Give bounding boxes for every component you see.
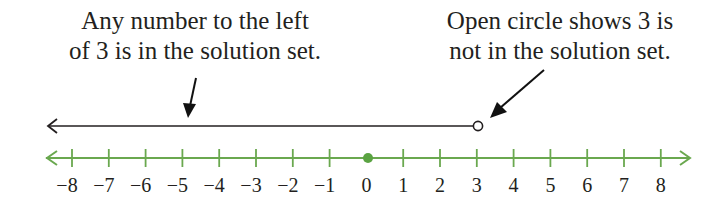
- tick-label: −2: [277, 174, 298, 196]
- filled-point-zero-icon: [363, 153, 373, 163]
- open-circle-icon: [473, 121, 482, 130]
- tick-label: −1: [314, 174, 335, 196]
- tick-label: 6: [582, 174, 592, 196]
- tick-label: 7: [619, 174, 629, 196]
- right-pointer-arrow: [490, 70, 544, 118]
- tick-label: 1: [398, 174, 408, 196]
- tick-label: 4: [509, 174, 519, 196]
- axis-ticks: −8−7−6−5−4−3−2−1012345678: [56, 149, 665, 196]
- tick-label: −3: [240, 174, 261, 196]
- tick-label: −6: [130, 174, 151, 196]
- tick-label: −5: [167, 174, 188, 196]
- left-pointer-arrow: [183, 78, 196, 118]
- tick-label: 5: [545, 174, 555, 196]
- number-line-diagram: −8−7−6−5−4−3−2−1012345678: [0, 0, 720, 216]
- tick-label: 3: [472, 174, 482, 196]
- tick-label: −7: [93, 174, 114, 196]
- tick-label: 8: [656, 174, 666, 196]
- tick-label: −4: [204, 174, 225, 196]
- solution-ray: [48, 119, 483, 133]
- tick-label: 0: [361, 174, 371, 196]
- tick-label: 2: [435, 174, 445, 196]
- tick-label: −8: [56, 174, 77, 196]
